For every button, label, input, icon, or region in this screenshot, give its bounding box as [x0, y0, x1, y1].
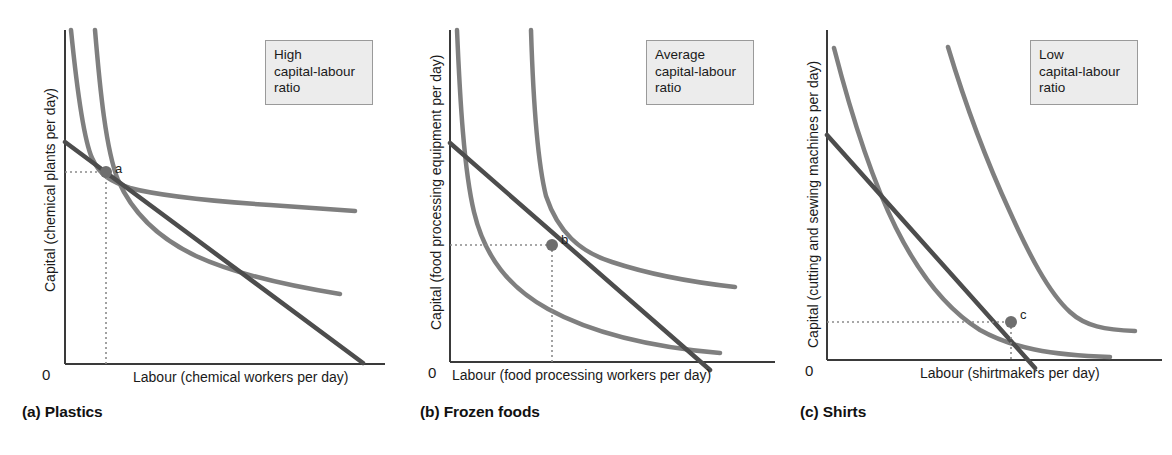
ratio-callout-box: Average capital-labour ratio: [646, 40, 754, 105]
ratio-callout-box: High capital-labour ratio: [265, 40, 373, 105]
x-axis-title: Labour (food processing workers per day): [452, 367, 711, 383]
x-axis-title: Labour (chemical workers per day): [133, 369, 349, 385]
tangency-point-marker: [546, 239, 558, 251]
y-axis-title: Capital (chemical plants per day): [42, 88, 58, 292]
tangency-point-marker: [100, 166, 112, 178]
panel-frozen-foods: b Average capital-labour ratio Capital (…: [390, 0, 780, 455]
isocost-line: [450, 143, 710, 370]
point-label-a: a: [115, 161, 122, 176]
ratio-callout-box: Low capital-labour ratio: [1030, 40, 1138, 105]
y-axis-title: Capital (food processing equipment per d…: [428, 55, 444, 331]
origin-label: 0: [42, 366, 50, 383]
point-label-b: b: [561, 232, 568, 247]
panel-plastics: a High capital-labour ratio Capital (che…: [0, 0, 390, 455]
point-label-c: c: [1020, 307, 1027, 322]
panel-caption-plastics: (a) Plastics: [22, 403, 103, 421]
panel-caption-shirts: (c) Shirts: [800, 403, 866, 421]
origin-label: 0: [805, 362, 813, 379]
y-axis-title: Capital (cutting and sewing machines per…: [805, 61, 821, 348]
isocost-line: [827, 135, 1035, 368]
panel-caption-frozen-foods: (b) Frozen foods: [420, 403, 540, 421]
tangency-point-marker: [1005, 316, 1017, 328]
x-axis-title: Labour (shirtmakers per day): [920, 365, 1100, 381]
panel-shirts: c Low capital-labour ratio Capital (cutt…: [780, 0, 1170, 455]
figure-three-industries: a High capital-labour ratio Capital (che…: [0, 0, 1172, 455]
origin-label: 0: [428, 364, 436, 381]
